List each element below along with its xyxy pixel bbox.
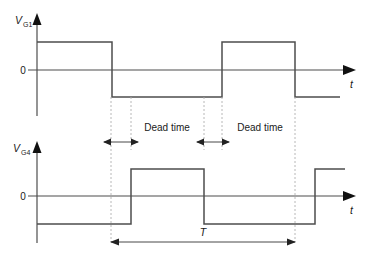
vg4-axis-label-subscript: G4	[21, 149, 30, 156]
plot-vg1: V G1 0 t	[15, 13, 356, 116]
plot-vg4: V G4 0 t	[13, 141, 356, 243]
dead-time-1-arrow-left	[103, 139, 111, 146]
vg1-axis-label: V	[15, 14, 23, 26]
dead-time-1-arrow-right	[131, 139, 139, 146]
dead-time-2-label: Dead time	[237, 122, 283, 133]
dead-time-1-label: Dead time	[144, 122, 190, 133]
period-arrow-left	[110, 238, 119, 245]
period-label: T	[200, 226, 208, 238]
vg1-time-axis-arrowhead	[343, 65, 356, 75]
dead-time-2-arrow-right	[222, 139, 230, 146]
dead-time-annotation-1: Dead time	[103, 122, 190, 145]
vg1-time-axis-label: t	[350, 78, 354, 90]
vg4-time-axis-label: t	[350, 204, 354, 216]
vg1-zero-label: 0	[20, 65, 26, 76]
waveform-figure: V G1 0 t Dead time Dead time	[0, 0, 375, 256]
period-arrow-right	[287, 238, 296, 245]
vg4-y-axis-arrowhead	[33, 141, 42, 153]
vg1-y-axis-arrowhead	[33, 13, 42, 25]
vg4-time-axis-arrowhead	[343, 191, 356, 201]
vg4-axis-label: V	[13, 142, 21, 154]
vg1-axis-label-subscript: G1	[23, 21, 32, 28]
dead-time-2-arrow-left	[196, 139, 204, 146]
period-annotation: T	[110, 226, 296, 246]
dead-time-annotation-2: Dead time	[196, 122, 283, 145]
vg4-zero-label: 0	[20, 191, 26, 202]
